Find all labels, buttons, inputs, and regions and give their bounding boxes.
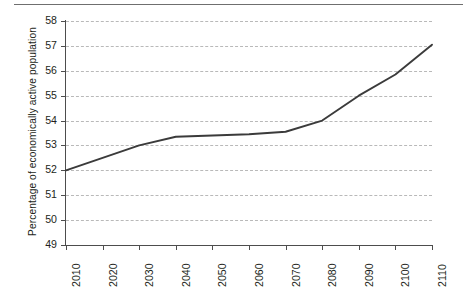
x-axis-tick [212, 246, 213, 250]
x-axis-tick-label: 2040 [180, 247, 192, 287]
x-axis-tick-label: 2030 [143, 247, 155, 287]
gridline [66, 170, 432, 171]
y-axis-tick-label: 52 [37, 163, 57, 175]
gridline [66, 121, 432, 122]
y-axis-tick [61, 96, 65, 97]
x-axis-tick [395, 246, 396, 250]
gridline [66, 145, 432, 146]
gridline [66, 21, 432, 22]
x-axis-tick-label: 2090 [363, 247, 375, 287]
x-axis-tick [286, 246, 287, 250]
x-axis-tick-label: 2100 [399, 247, 411, 287]
x-axis-tick-label: 2080 [326, 247, 338, 287]
x-axis-tick [432, 246, 433, 250]
x-axis-tick-label: 2110 [436, 247, 448, 287]
x-axis-tick-label: 2050 [216, 247, 228, 287]
chart-figure: Percentage of economically active popula… [0, 0, 469, 292]
x-axis-tick-label: 2070 [290, 247, 302, 287]
gridline [66, 220, 432, 221]
y-axis-tick-label: 53 [37, 138, 57, 150]
y-axis-tick-label: 57 [37, 39, 57, 51]
gridline [66, 96, 432, 97]
y-axis-tick [61, 121, 65, 122]
x-axis-tick [176, 246, 177, 250]
gridline [66, 195, 432, 196]
y-axis-tick-label: 58 [37, 14, 57, 26]
y-axis-tick [61, 71, 65, 72]
gridline [66, 71, 432, 72]
top-divider-rule [14, 4, 463, 5]
y-axis-tick-label: 50 [37, 213, 57, 225]
y-axis-tick-label: 55 [37, 89, 57, 101]
x-axis-tick [249, 246, 250, 250]
x-axis-tick-label: 2010 [70, 247, 82, 287]
x-axis-tick [139, 246, 140, 250]
y-axis-tick [61, 195, 65, 196]
y-axis-tick [61, 170, 65, 171]
y-axis-tick [61, 21, 65, 22]
y-axis-tick [61, 46, 65, 47]
y-axis-tick-label: 51 [37, 188, 57, 200]
y-axis-tick [61, 220, 65, 221]
y-axis-tick-label: 49 [37, 238, 57, 250]
y-axis-tick-label: 56 [37, 64, 57, 76]
gridline [66, 46, 432, 47]
plot-area [66, 21, 432, 245]
y-axis-tick [61, 245, 65, 246]
x-axis-tick [322, 246, 323, 250]
y-axis-tick-labels: 58575655545352515049 [35, 0, 57, 292]
x-axis-tick [359, 246, 360, 250]
x-axis-tick [66, 246, 67, 250]
y-axis-tick [61, 145, 65, 146]
x-axis-tick-label: 2060 [253, 247, 265, 287]
x-axis-tick [103, 246, 104, 250]
x-axis-tick-label: 2020 [107, 247, 119, 287]
y-axis-tick-label: 54 [37, 114, 57, 126]
